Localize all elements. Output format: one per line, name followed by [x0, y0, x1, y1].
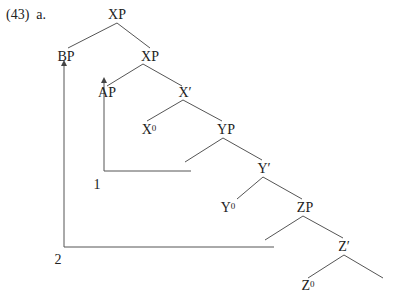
node-bp: BP [57, 50, 74, 64]
node-yp: YP [217, 123, 235, 137]
node-z-bar: Z′ [338, 240, 350, 254]
node-z0: Z0 [301, 279, 314, 293]
node-y0: Y0 [221, 201, 236, 215]
node-y0-superscript: 0 [231, 201, 236, 211]
node-x0: X0 [142, 123, 157, 137]
movement-index-1: 1 [94, 178, 101, 192]
node-y-bar: Y′ [257, 162, 270, 176]
node-y0-label: Y [221, 200, 231, 215]
node-z0-label: Z [301, 278, 310, 293]
node-x0-label: X [142, 122, 152, 137]
node-x0-superscript: 0 [152, 123, 157, 133]
node-xp: XP [141, 50, 159, 64]
node-z0-superscript: 0 [310, 279, 315, 289]
movement-index-2: 2 [55, 253, 62, 267]
node-x-bar: X′ [178, 86, 191, 100]
node-ap: AP [98, 86, 116, 100]
node-zp: ZP [297, 201, 313, 215]
node-xp-root: XP [108, 8, 126, 22]
